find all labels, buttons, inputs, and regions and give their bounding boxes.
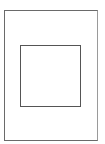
inner-square (20, 45, 81, 107)
